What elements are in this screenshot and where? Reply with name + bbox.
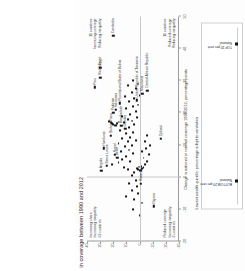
- scatter-point: [99, 66, 101, 68]
- country-label: United Republic of Tanzania: [135, 56, 139, 97]
- rotated-figure-page: in coverage between 1990 and 2012 -20-10…: [75, 0, 170, 271]
- y-axis-tick-label: -20: [164, 243, 168, 252]
- scatter-point: [139, 214, 141, 216]
- scatter-point: [141, 201, 143, 203]
- scatter-point: [149, 144, 151, 146]
- quadrant-annotation-line: Increasing inequality: [168, 206, 171, 237]
- scatter-point: [116, 156, 118, 158]
- scatter-point: [118, 161, 120, 163]
- scatter-point: [124, 145, 126, 147]
- scatter-point: [128, 148, 130, 150]
- scatter-point: [141, 150, 143, 152]
- country-label: Cambodia: [111, 18, 115, 33]
- scatter-point: [123, 166, 125, 168]
- scatter-point: [143, 156, 145, 158]
- scatter-point: [147, 134, 149, 136]
- scatter-point: [131, 120, 133, 122]
- scatter-point: [124, 127, 126, 129]
- quadrant-annotation-bottom-right: 11 countriesReduced coverageReducing ine…: [163, 18, 170, 48]
- country-label: Angola: [99, 157, 103, 167]
- scatter-point: [145, 147, 147, 149]
- scatter-point: [128, 182, 130, 184]
- scatter-point: [131, 189, 133, 191]
- scatter-point: [125, 195, 127, 197]
- scatter-point: [128, 100, 130, 102]
- scatter-point: [112, 111, 114, 113]
- y-axis-tick-label: 20: [111, 243, 115, 252]
- country-label: Nepal: [113, 143, 117, 152]
- scatter-point: [136, 116, 138, 118]
- scatter-point: [118, 142, 120, 144]
- scatter-point: [132, 208, 134, 210]
- scatter-point: [127, 84, 129, 86]
- scatter-point: [133, 171, 135, 173]
- scatter-point: [146, 89, 148, 91]
- scatter-point: [125, 132, 127, 134]
- scatter-point: [118, 120, 120, 122]
- scatter-point: [135, 179, 137, 181]
- scatter-point: [131, 144, 133, 146]
- scatter-point: [148, 153, 150, 155]
- scatter-point: [111, 163, 113, 165]
- y-axis-tick-label: 30: [98, 243, 102, 252]
- quadrant-annotation-line: Increasing coverage: [93, 18, 97, 49]
- scatter-point: [128, 126, 130, 128]
- scatter-point: [131, 91, 133, 93]
- scatter-point: [132, 152, 134, 154]
- scatter-point: [139, 94, 141, 96]
- scatter-point: [129, 113, 131, 115]
- scatter-point: [147, 160, 149, 162]
- scatter-point: [112, 34, 114, 36]
- scatter-point: [138, 165, 140, 167]
- scatter-point: [137, 192, 139, 194]
- scatter-point: [159, 137, 161, 139]
- scatter-point: [141, 165, 143, 167]
- scatter-point: [125, 155, 127, 157]
- scatter-point: [132, 105, 134, 107]
- quadrant-annotation-line: Reduced coverage: [168, 18, 171, 48]
- quadrant-annotation-line: 62 countries: [98, 206, 102, 237]
- country-label: Mauritania: [140, 75, 144, 90]
- scatter-point: [133, 198, 135, 200]
- scatter-point: [108, 120, 110, 122]
- scatter-point: [127, 118, 129, 120]
- scatter-point: [115, 108, 117, 110]
- scatter-point: [106, 164, 108, 166]
- scatter-point: [137, 103, 139, 105]
- quadrant-annotation-line: Increasing inequality: [93, 206, 97, 237]
- scatter-point: [129, 136, 131, 138]
- scatter-point: [135, 139, 137, 141]
- figure-title: in coverage between 1990 and 2012: [78, 176, 84, 267]
- country-label: Djibouti: [159, 125, 163, 136]
- country-label: Honduras: [102, 131, 106, 145]
- quadrant-annotation-top-right: 11 countriesIncreasing coverageReducing …: [89, 18, 102, 49]
- scatter-point: [135, 110, 137, 112]
- quadrant-annotation-bottom-left: Reduced coverageIncreasing inequality3 c…: [163, 206, 170, 237]
- scatter-point: [127, 168, 129, 170]
- scatter-point: [120, 124, 122, 126]
- scatter-point: [133, 123, 135, 125]
- scatter-point: [143, 166, 145, 168]
- scatter-point: [141, 92, 143, 94]
- y-axis-tick-label: -10: [151, 243, 155, 252]
- scatter-point: [144, 163, 146, 165]
- scatter-point: [132, 131, 134, 133]
- country-label: Central African Republic: [145, 52, 149, 87]
- scatter-point: [127, 140, 129, 142]
- scatter-point: [122, 115, 124, 117]
- scatter-point: [132, 79, 134, 81]
- country-label: Nigeria: [152, 193, 156, 203]
- scatter-point: [124, 95, 126, 97]
- scatter-point: [109, 134, 111, 136]
- scatter-point: [113, 153, 115, 155]
- scatter-figure: in coverage between 1990 and 2012 -20-10…: [75, 0, 170, 271]
- scatter-point: [136, 185, 138, 187]
- country-label: Egypt: [98, 56, 102, 64]
- zero-horizontal-reference-line: [140, 16, 141, 241]
- scatter-point: [123, 121, 125, 123]
- scatter-point: [153, 204, 155, 206]
- scatter-point: [103, 147, 105, 149]
- scatter-point: [136, 98, 138, 100]
- scatter-point: [122, 158, 124, 160]
- country-label: Sierra Leone: [105, 144, 109, 163]
